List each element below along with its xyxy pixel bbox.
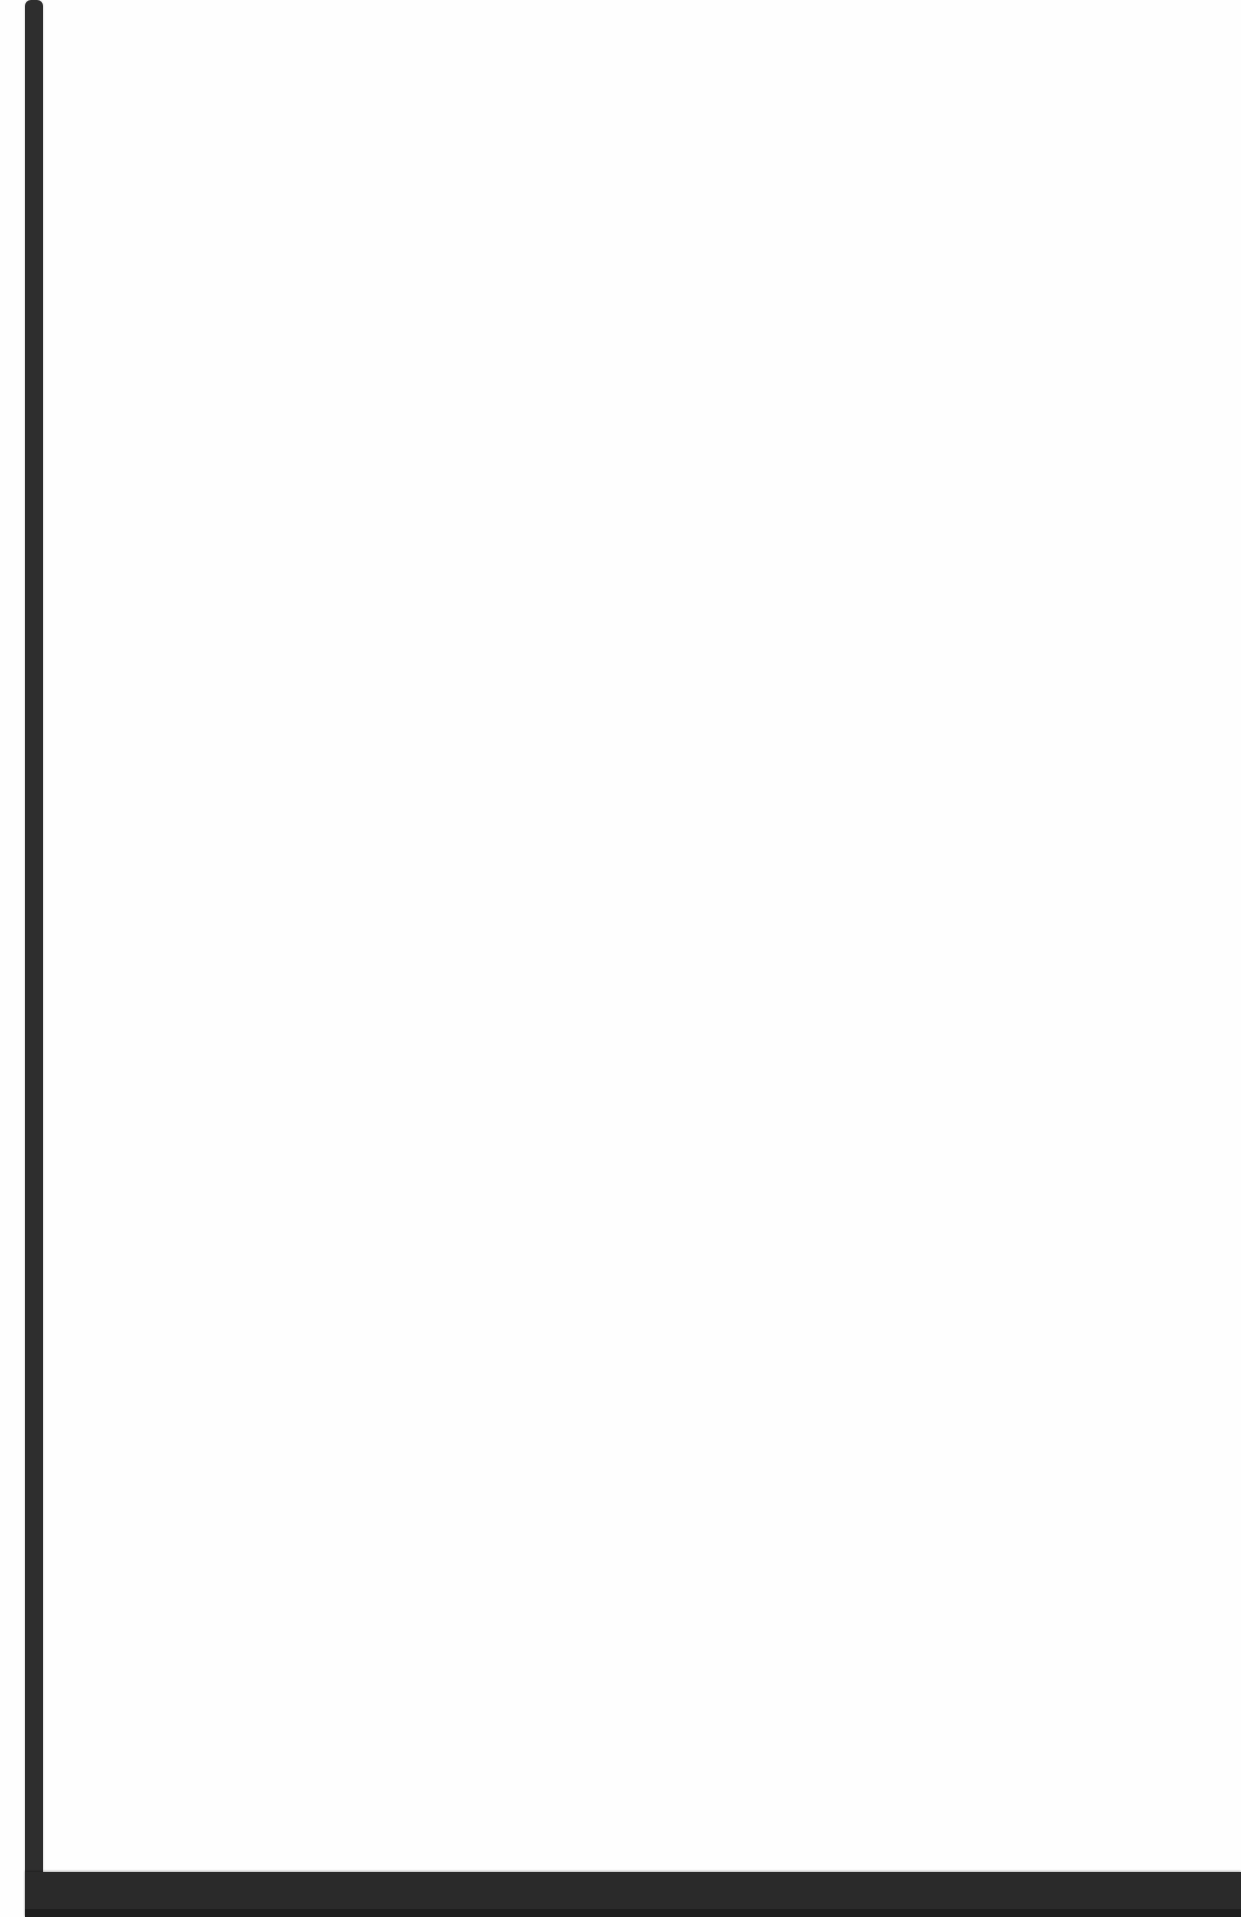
blank-page-content (43, 0, 1241, 1872)
scanned-page (0, 0, 1241, 1917)
scan-bottom-edge-shadow (25, 1872, 1241, 1917)
scan-left-edge-shadow (25, 0, 43, 1917)
